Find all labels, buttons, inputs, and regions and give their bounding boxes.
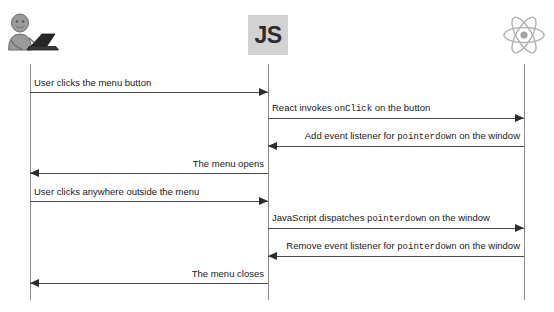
code-token: pointerdown <box>397 242 456 252</box>
message-line <box>30 201 268 202</box>
arrowhead-left-icon <box>30 169 39 177</box>
label-text: on the window <box>457 130 520 141</box>
arrowhead-left-icon <box>268 252 277 260</box>
actor-js: JS <box>236 6 300 64</box>
message-line <box>30 92 268 93</box>
code-token: pointerdown <box>397 132 456 142</box>
message-line <box>268 118 524 119</box>
message-line <box>268 146 524 147</box>
message-line <box>30 173 268 174</box>
arrowhead-left-icon <box>30 279 39 287</box>
arrowhead-right-icon <box>515 114 524 122</box>
actor-user <box>0 6 62 64</box>
message-label: JavaScript dispatches pointerdown on the… <box>272 212 490 225</box>
label-text: on the button <box>372 102 430 113</box>
arrowhead-right-icon <box>515 224 524 232</box>
message-label: The menu opens <box>193 158 264 170</box>
lifeline-js <box>268 64 269 300</box>
message-label: React invokes onClick on the button <box>272 102 430 115</box>
label-text: React invokes <box>272 102 334 113</box>
label-text: on the window <box>457 240 520 251</box>
sequence-diagram: JS User clicks the menu buttonReact invo… <box>0 0 554 312</box>
label-text: on the window <box>426 212 489 223</box>
label-text: Add event listener for <box>305 130 397 141</box>
label-text: User clicks the menu button <box>34 77 151 88</box>
message-label: User clicks the menu button <box>34 77 151 89</box>
person-with-laptop-icon <box>0 12 60 58</box>
lifeline-user <box>30 64 31 300</box>
arrowhead-left-icon <box>268 142 277 150</box>
arrowhead-right-icon <box>259 197 268 205</box>
arrowhead-right-icon <box>259 88 268 96</box>
message-label: Remove event listener for pointerdown on… <box>286 240 520 253</box>
message-line <box>268 256 524 257</box>
actor-react <box>492 6 554 64</box>
lifeline-react <box>524 64 525 300</box>
message-label: User clicks anywhere outside the menu <box>34 186 199 198</box>
label-text: User clicks anywhere outside the menu <box>34 186 199 197</box>
message-label: Add event listener for pointerdown on th… <box>305 130 520 143</box>
code-token: onClick <box>334 104 372 114</box>
message-label: The menu closes <box>192 268 264 280</box>
message-line <box>30 283 268 284</box>
message-line <box>268 228 524 229</box>
js-logo-icon: JS <box>248 15 288 55</box>
label-text: The menu opens <box>193 158 264 169</box>
label-text: Remove event listener for <box>286 240 397 251</box>
code-token: pointerdown <box>367 214 426 224</box>
label-text: JavaScript dispatches <box>272 212 367 223</box>
js-logo-label: JS <box>254 22 281 49</box>
label-text: The menu closes <box>192 268 264 279</box>
react-atom-logo-icon <box>501 14 547 56</box>
